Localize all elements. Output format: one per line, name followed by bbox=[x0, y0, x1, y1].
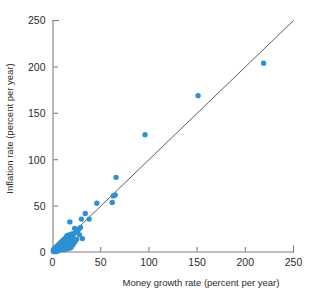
x-tick-label: 0 bbox=[50, 256, 56, 268]
x-tick-label: 50 bbox=[95, 256, 107, 268]
scatter-chart-figure: 050100150200250050100150200250Money grow… bbox=[0, 0, 316, 295]
y-axis-title: Inflation rate (percent per year) bbox=[4, 63, 15, 193]
data-point bbox=[78, 225, 83, 230]
data-point bbox=[86, 216, 91, 221]
data-point bbox=[110, 200, 115, 205]
data-point bbox=[195, 93, 200, 98]
data-point bbox=[72, 226, 77, 231]
y-tick-label: 50 bbox=[34, 200, 46, 212]
data-point bbox=[142, 132, 147, 137]
data-point bbox=[111, 193, 116, 198]
data-point bbox=[67, 219, 72, 224]
data-point bbox=[261, 60, 266, 65]
data-point bbox=[113, 175, 118, 180]
chart-canvas: 050100150200250050100150200250Money grow… bbox=[0, 0, 316, 295]
x-tick-label: 200 bbox=[237, 256, 255, 268]
x-tick-label: 100 bbox=[140, 256, 158, 268]
y-tick-label: 200 bbox=[28, 61, 46, 73]
y-tick-label: 250 bbox=[28, 14, 46, 26]
data-series-0 bbox=[51, 60, 267, 254]
data-point bbox=[83, 211, 88, 216]
y-tick-label: 100 bbox=[28, 154, 46, 166]
y-tick-label: 0 bbox=[40, 246, 46, 258]
data-point bbox=[77, 232, 82, 237]
data-point bbox=[65, 243, 70, 248]
data-point bbox=[79, 216, 84, 221]
data-point bbox=[71, 238, 76, 243]
plot-area: 050100150200250050100150200250Money grow… bbox=[4, 14, 302, 287]
data-point bbox=[51, 249, 56, 254]
data-point bbox=[94, 201, 99, 206]
x-axis-title: Money growth rate (percent per year) bbox=[123, 277, 280, 288]
x-tick-label: 150 bbox=[188, 256, 206, 268]
x-tick-label: 250 bbox=[285, 256, 303, 268]
y-tick-label: 150 bbox=[28, 107, 46, 119]
